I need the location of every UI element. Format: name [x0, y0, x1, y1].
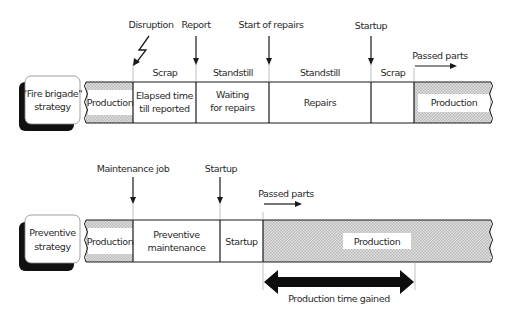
- event-disruption: Disruption: [128, 19, 173, 30]
- preventive-strategy-row: Preventive strategy Production Preventiv…: [19, 163, 493, 304]
- event-maintenance-job: Maintenance job: [97, 163, 170, 174]
- phase-scrap-2: Scrap: [380, 67, 405, 78]
- arrow-down-maintenance-icon: [130, 177, 136, 204]
- segment-elapsed-line1: Elapsed time: [136, 90, 194, 101]
- arrow-down-startup-icon: [217, 177, 223, 204]
- preventive-label-box: Preventive strategy: [19, 215, 80, 271]
- preventive-label-line1: Preventive: [29, 227, 76, 238]
- double-arrow-time-gained-icon: [264, 270, 414, 294]
- segment-production-end: Production: [431, 97, 478, 108]
- lightning-bolt-icon: [133, 36, 149, 66]
- event-startup: Startup: [355, 20, 388, 31]
- segment-startup: Startup: [225, 236, 258, 247]
- event-start-of-repairs: Start of repairs: [239, 19, 304, 30]
- strategy-comparison-diagram: "Fire brigade" strategy Production Elaps…: [0, 0, 509, 310]
- arrow-right-passed-parts-icon: [415, 63, 457, 69]
- segment-waiting-line2: for repairs: [210, 102, 255, 113]
- fire-brigade-strategy-row: "Fire brigade" strategy Production Elaps…: [19, 19, 493, 131]
- event-passed-parts: Passed parts: [258, 188, 314, 199]
- segment-repairs: Repairs: [304, 97, 337, 108]
- event-startup: Startup: [205, 163, 238, 174]
- fire-brigade-label-box: "Fire brigade" strategy: [19, 76, 82, 131]
- segment-preventive-line1: Preventive: [153, 229, 200, 240]
- production-time-gained-label: Production time gained: [288, 293, 390, 304]
- arrow-down-startup-icon: [368, 36, 374, 65]
- fire-brigade-label-line2: strategy: [34, 101, 71, 112]
- event-passed-parts: Passed parts: [412, 50, 468, 61]
- phase-scrap-1: Scrap: [152, 67, 177, 78]
- segment-production-start: Production: [87, 236, 134, 247]
- preventive-label-line2: strategy: [34, 241, 71, 252]
- event-report: Report: [181, 19, 211, 30]
- segment-production-start: Production: [87, 97, 134, 108]
- arrow-down-report-icon: [193, 36, 199, 65]
- phase-standstill-2: Standstill: [300, 67, 340, 78]
- segment-production-end: Production: [354, 236, 401, 247]
- arrow-right-passed-parts-icon: [264, 201, 302, 207]
- segment-elapsed-line2: till reported: [139, 103, 190, 114]
- fire-brigade-label-line1: "Fire brigade": [23, 88, 82, 99]
- phase-standstill-1: Standstill: [213, 67, 253, 78]
- arrow-down-start-repairs-icon: [266, 36, 272, 65]
- segment-waiting-line1: Waiting: [216, 89, 249, 100]
- segment-preventive-line2: maintenance: [148, 242, 206, 253]
